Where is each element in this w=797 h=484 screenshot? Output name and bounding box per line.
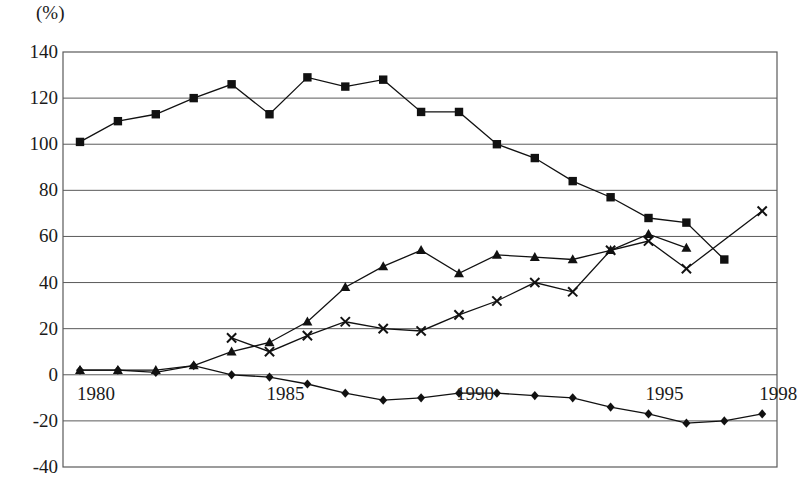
y-axis-tick-labels: 140120100806040200-20-40 [0,0,58,484]
series-cross-marker [227,333,236,342]
y-axis-tick-20: 20 [6,318,58,340]
x-axis-tick-1990: 1990 [456,383,494,405]
series-square-marker [303,73,311,81]
series-diamond-marker [341,389,349,398]
series-triangle-line [80,234,686,370]
series-triangle [75,229,691,374]
series-cross-marker [758,206,767,215]
series-diamond-marker [531,391,539,400]
series-diamond-marker [569,393,577,402]
series-square-marker [682,218,690,226]
series-triangle-marker [416,245,426,254]
series-diamond-marker [682,419,690,428]
series-diamond-marker [228,370,236,379]
series-square-marker [152,110,160,118]
series-square-marker [417,108,425,116]
series-square-marker [76,138,84,146]
series-diamond-marker [303,379,311,388]
series-triangle-marker [454,268,464,277]
series-triangle-marker [492,250,502,259]
series-diamond-marker [645,409,653,418]
series-diamond-marker [493,389,501,398]
series-cross-marker [265,347,274,356]
series-square-marker [569,177,577,185]
series-square-marker [190,94,198,102]
series-diamond-marker [266,372,274,381]
series-diamond-marker [758,409,766,418]
series-triangle-marker [340,282,350,291]
series-cross-marker [303,331,312,340]
series-triangle-marker [265,337,275,346]
series-square [76,73,729,264]
y-axis-tick-neg20: -20 [6,410,58,432]
series-cross-marker [682,264,691,273]
series-cross [227,206,767,356]
series-cross-marker [454,310,463,319]
series-square-line [80,77,724,259]
series-cross-marker [568,287,577,296]
y-axis-tick-neg40: -40 [6,456,58,478]
series-diamond-marker [379,396,387,405]
series-square-marker [227,80,235,88]
series-square-marker [720,255,728,263]
y-axis-tick-100: 100 [6,133,58,155]
series-square-marker [493,140,501,148]
x-axis-tick-1985: 1985 [267,383,305,405]
y-axis-tick-60: 60 [6,225,58,247]
y-axis-tick-120: 120 [6,87,58,109]
y-axis-tick-80: 80 [6,179,58,201]
series-square-marker [531,154,539,162]
series-cross-marker [492,296,501,305]
x-axis-tick-1980: 1980 [77,383,115,405]
series-square-marker [606,193,614,201]
series-triangle-marker [378,261,388,270]
series-square-marker [379,75,387,83]
y-axis-tick-40: 40 [6,272,58,294]
series-square-marker [341,82,349,90]
y-axis-tick-140: 140 [6,41,58,63]
y-axis-tick-0: 0 [6,364,58,386]
series-square-marker [265,110,273,118]
series-square-marker [455,108,463,116]
series-diamond-marker [720,416,728,425]
x-axis-tick-1998: 1998 [759,383,797,405]
series-diamond-marker [417,393,425,402]
x-axis-tick-1995: 1995 [646,383,684,405]
series-diamond-marker [607,402,615,411]
series-square-marker [114,117,122,125]
gridlines [63,98,777,421]
series-square-marker [644,214,652,222]
